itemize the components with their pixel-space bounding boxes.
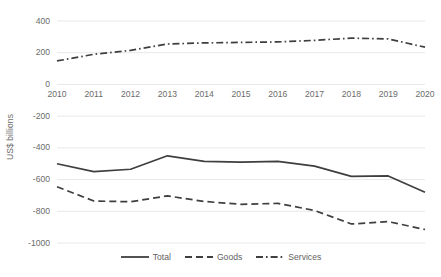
line-chart: 4002000-200-400-600-800-1000 20102011201… [0, 0, 441, 277]
legend-swatch-dashdot-icon [255, 252, 285, 262]
x-tick-label: 2014 [184, 89, 224, 99]
legend-label: Services [288, 252, 321, 262]
chart-legend: TotalGoodsServices [0, 252, 441, 262]
x-tick-label: 2019 [368, 89, 408, 99]
y-tick-label: 0 [14, 79, 50, 89]
legend-swatch-solid-icon [120, 252, 150, 262]
legend-label: Total [153, 252, 171, 262]
legend-label: Goods [217, 252, 242, 262]
x-tick-label: 2016 [258, 89, 298, 99]
y-tick-label: 200 [14, 47, 50, 57]
legend-swatch-dashed-icon [184, 252, 214, 262]
series-line-services [57, 38, 425, 61]
x-tick-label: 2015 [221, 89, 261, 99]
legend-item-goods[interactable]: Goods [184, 252, 242, 262]
x-tick-label: 2012 [111, 89, 151, 99]
x-tick-label: 2010 [37, 89, 77, 99]
gridlines [57, 21, 425, 243]
x-tick-label: 2011 [74, 89, 114, 99]
x-tick-label: 2018 [331, 89, 371, 99]
y-tick-label: 400 [14, 16, 50, 26]
x-tick-label: 2020 [405, 89, 441, 99]
legend-item-total[interactable]: Total [120, 252, 171, 262]
x-tick-label: 2013 [147, 89, 187, 99]
chart-plot-area [0, 0, 441, 277]
y-tick-label: -800 [14, 206, 50, 216]
y-tick-label: -200 [14, 111, 50, 121]
series-line-total [57, 156, 425, 192]
y-axis-title: US$ billions [5, 105, 15, 169]
y-tick-label: -1000 [14, 238, 50, 248]
legend-item-services[interactable]: Services [255, 252, 321, 262]
x-tick-label: 2017 [295, 89, 335, 99]
y-tick-label: -400 [14, 142, 50, 152]
series-lines [57, 38, 425, 229]
series-line-goods [57, 187, 425, 230]
y-tick-label: -600 [14, 174, 50, 184]
